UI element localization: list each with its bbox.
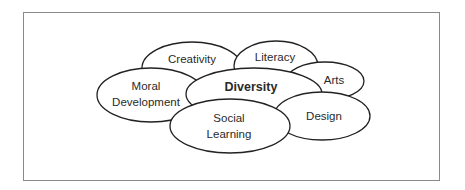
social-label-line2: Learning	[207, 128, 252, 140]
moral-label-line1: Moral	[132, 80, 161, 92]
social-label-line1: Social	[213, 112, 244, 124]
moral-label-line2: Development	[112, 96, 181, 108]
literacy-label: Literacy	[255, 51, 296, 63]
creativity-label: Creativity	[168, 53, 216, 65]
arts-label: Arts	[324, 74, 345, 86]
design-label: Design	[306, 110, 342, 122]
diversity-ellipse-diagram: Creativity Literacy Arts Moral Developme…	[0, 0, 465, 190]
social-learning-ellipse	[170, 99, 290, 153]
node-social-learning: Social Learning	[170, 99, 290, 153]
diversity-label: Diversity	[225, 80, 278, 94]
